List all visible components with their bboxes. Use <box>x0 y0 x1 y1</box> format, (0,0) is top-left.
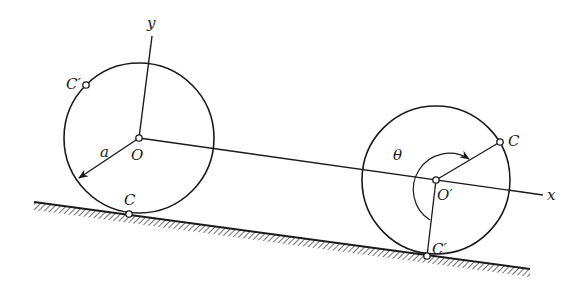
inclined-plane <box>34 202 530 277</box>
origin-o-prime-marker <box>433 177 439 183</box>
point-c-prime-left-marker <box>83 82 89 88</box>
origin-o-label: O <box>131 146 143 164</box>
point-c-right-marker <box>497 139 503 145</box>
x-axis-label: x <box>547 186 556 204</box>
theta-label: θ <box>393 146 402 164</box>
origin-o-marker <box>136 135 142 141</box>
point-c-left-label: C <box>124 191 136 209</box>
right-disk <box>362 106 510 259</box>
point-c-left-marker <box>126 211 132 217</box>
x-axis-line <box>139 138 543 195</box>
y-axis-label: y <box>146 14 156 32</box>
radius-to-c <box>436 142 500 180</box>
incline-surface-line <box>34 202 530 269</box>
radius-arrow <box>79 138 139 178</box>
point-c-prime-right-label: C′ <box>432 240 447 258</box>
radius-a-label: a <box>100 143 109 161</box>
ground-hatching <box>34 202 530 277</box>
point-c-right-label: C <box>508 132 520 150</box>
rolling-disk-diagram: y x O a C′ C θ C O′ C′ <box>0 0 586 292</box>
y-axis-line <box>139 36 152 138</box>
point-c-prime-right-marker <box>424 253 430 259</box>
origin-o-prime-label: O′ <box>437 186 453 204</box>
point-c-prime-left-label: C′ <box>66 75 81 93</box>
left-disk <box>64 63 214 217</box>
